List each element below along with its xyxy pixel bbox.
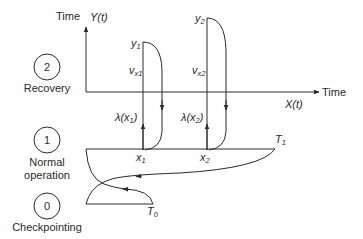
y-axis-label: Y(t) — [90, 11, 108, 23]
recovery-path-x2 — [207, 18, 226, 150]
checkpoint-curve-up — [86, 180, 109, 204]
state-label: Checkpointing — [12, 221, 82, 233]
label-lambda-x1: λ(x1) — [114, 111, 138, 125]
state-1-normal-operation: 1 Normal operation — [24, 127, 70, 181]
state-label: Recovery — [24, 82, 71, 94]
state-label-line1: Normal — [29, 156, 64, 168]
state-2-recovery: 2 Recovery — [24, 54, 71, 94]
label-x2: x2 — [199, 151, 211, 165]
arrow-left-T1 — [136, 176, 142, 177]
label-lambda-x2: λ(x2) — [180, 111, 204, 125]
x-axis-title: Time — [322, 86, 346, 98]
x-axis-label: X(t) — [284, 98, 303, 110]
label-y1: y1 — [130, 37, 141, 51]
curve-x2 — [207, 18, 226, 150]
state-number: 0 — [44, 200, 50, 212]
return-curve-T1 — [109, 149, 275, 180]
curve-x1 — [143, 42, 162, 150]
label-T1: T1 — [275, 133, 286, 147]
state-number: 2 — [44, 61, 50, 73]
label-y2: y2 — [194, 12, 206, 26]
state-0-checkpointing: 0 Checkpointing — [12, 193, 82, 233]
label-x1: x1 — [135, 151, 146, 165]
label-vx2: vx2 — [192, 64, 206, 78]
state-label-line2: operation — [24, 169, 70, 181]
label-vx1: vx1 — [129, 64, 142, 78]
checkpoint-recovery-diagram: 2 Recovery 1 Normal operation 0 Checkpoi… — [0, 0, 363, 239]
recovery-path-x1 — [143, 42, 162, 150]
y-axis-title: Time — [56, 10, 80, 22]
point-labels: y1 y2 vx1 vx2 λ(x1) λ(x2) x1 x2 T1 T0 — [114, 12, 286, 219]
state-number: 1 — [44, 134, 50, 146]
label-T0: T0 — [147, 205, 159, 219]
normal-operation-path — [86, 149, 275, 180]
